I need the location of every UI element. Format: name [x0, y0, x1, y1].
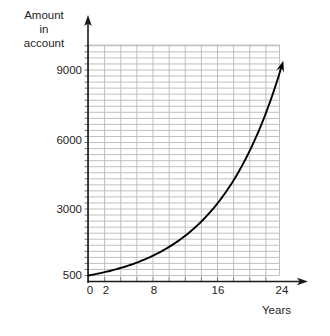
grid-horizontal-lines	[89, 45, 280, 276]
chart-container: Amount in account Years 9000 6000 3000 5…	[0, 0, 330, 336]
plot-area	[0, 0, 330, 336]
